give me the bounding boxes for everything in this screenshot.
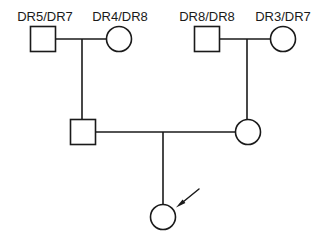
individual-I-2-female-circle[interactable] bbox=[107, 27, 132, 52]
label-I-3-haplotype: DR8/DR8 bbox=[179, 9, 235, 24]
label-I-4-haplotype: DR3/DR7 bbox=[255, 9, 311, 24]
pedigree-chart: DR5/DR7 DR4/DR8 DR8/DR8 DR3/DR7 bbox=[0, 0, 325, 248]
individual-II-2-female-circle[interactable] bbox=[236, 120, 261, 145]
proband-arrow-icon bbox=[176, 189, 199, 208]
label-I-1-haplotype: DR5/DR7 bbox=[17, 9, 73, 24]
individual-II-1-male-square[interactable] bbox=[71, 120, 96, 145]
generation-1-right-couple bbox=[195, 27, 296, 121]
generation-2-couple bbox=[71, 120, 261, 206]
label-I-2-haplotype: DR4/DR8 bbox=[92, 9, 148, 24]
individual-I-4-female-circle[interactable] bbox=[271, 27, 296, 52]
haplotype-label-group: DR5/DR7 DR4/DR8 DR8/DR8 DR3/DR7 bbox=[17, 9, 311, 24]
individual-I-3-male-square[interactable] bbox=[195, 27, 220, 52]
generation-3-proband bbox=[151, 189, 200, 230]
individual-III-1-proband-female-circle[interactable] bbox=[151, 205, 176, 230]
individual-I-1-male-square[interactable] bbox=[31, 27, 56, 52]
generation-1-left-couple bbox=[31, 27, 132, 121]
pedigree-diagram-canvas: DR5/DR7 DR4/DR8 DR8/DR8 DR3/DR7 bbox=[0, 0, 325, 248]
